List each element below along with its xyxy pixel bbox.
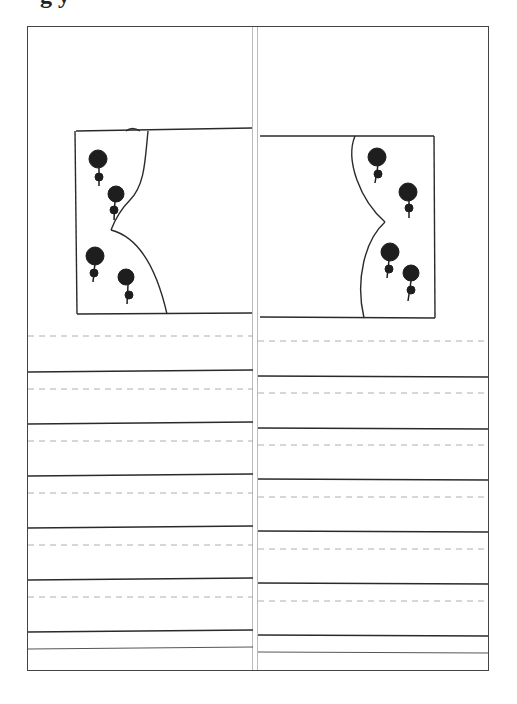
ruled-lines-left: [28, 370, 253, 649]
drawing-canvas: [0, 0, 517, 704]
ruled-lines-right: [258, 376, 488, 653]
roses: [86, 148, 419, 304]
rose-icon: [368, 148, 386, 183]
rose-icon: [403, 265, 419, 301]
rose-icon: [381, 243, 399, 278]
faint-lines: [28, 336, 488, 601]
rose-icon: [89, 150, 107, 186]
rose-icon: [118, 269, 134, 304]
rose-icon: [108, 186, 124, 220]
rose-icon: [86, 247, 104, 282]
rose-icon: [399, 183, 417, 218]
